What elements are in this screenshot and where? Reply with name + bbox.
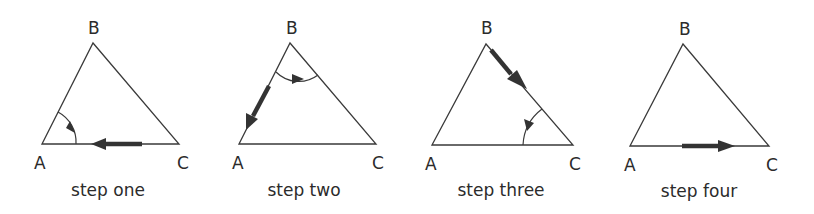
arc-arrowhead-icon: [524, 119, 534, 131]
side-arrowhead-icon: [718, 140, 735, 152]
vertex-label-a: A: [34, 153, 46, 173]
panel-step-four: B A C step four: [624, 19, 778, 201]
triangle-steps-diagram: B A C step one B A C step two B A C: [0, 0, 814, 214]
panel-step-two: B A C step two: [232, 18, 384, 200]
vertex-label-c: C: [372, 153, 384, 173]
vertex-label-b: B: [679, 19, 691, 39]
triangle: [239, 43, 376, 144]
side-arrowhead-icon: [246, 113, 258, 130]
panel-step-three: B A C step three: [425, 18, 581, 200]
step-caption: step one: [71, 180, 145, 200]
angle-arc-c: [523, 109, 542, 145]
vertex-label-a: A: [624, 155, 636, 175]
side-arrowhead-icon: [91, 138, 106, 150]
vertex-label-a: A: [232, 153, 244, 173]
triangle: [630, 44, 769, 146]
side-arrow-shaft: [491, 50, 511, 74]
step-caption: step three: [457, 180, 544, 200]
side-arrow-shaft: [253, 86, 269, 116]
panel-step-one: B A C step one: [34, 18, 189, 200]
vertex-label-b: B: [481, 18, 493, 38]
vertex-label-c: C: [766, 155, 778, 175]
vertex-label-c: C: [569, 154, 581, 174]
step-caption: step four: [661, 181, 737, 201]
triangle: [432, 44, 573, 145]
vertex-label-a: A: [425, 154, 437, 174]
arc-arrowhead-icon: [66, 121, 75, 133]
arc-arrowhead-icon: [292, 74, 304, 84]
vertex-label-c: C: [177, 153, 189, 173]
step-caption: step two: [267, 180, 340, 200]
vertex-label-b: B: [88, 18, 100, 38]
vertex-label-b: B: [286, 18, 298, 38]
triangle: [42, 43, 179, 144]
